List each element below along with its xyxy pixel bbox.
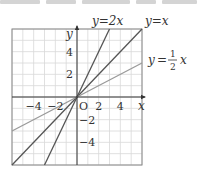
label-numerator: 1 bbox=[170, 49, 176, 59]
y-tick-label: 2 bbox=[66, 68, 73, 81]
label-var: y bbox=[147, 53, 155, 67]
origin-label: O bbox=[79, 100, 88, 113]
label-rhs: x bbox=[180, 53, 187, 67]
x-tick-label: −2 bbox=[47, 100, 63, 113]
y-axis-arrow bbox=[75, 25, 79, 30]
y-axis-label: y bbox=[65, 27, 73, 41]
label-denominator: 2 bbox=[170, 62, 176, 72]
y-tick-label: −2 bbox=[79, 114, 95, 127]
linear-functions-graph: xyO−4−22442−2−4 y=2x y=x y = 1 2 x bbox=[0, 0, 197, 177]
x-tick-label: −4 bbox=[26, 100, 42, 113]
label-y-half-x: y = 1 2 x bbox=[147, 49, 187, 72]
y-tick-label: 4 bbox=[66, 46, 73, 59]
label-eq: = bbox=[157, 53, 167, 67]
label-y-x: y=x bbox=[144, 14, 169, 28]
x-axis-label: x bbox=[138, 99, 145, 113]
x-tick-label: 4 bbox=[117, 100, 124, 113]
y-tick-label: −4 bbox=[79, 136, 95, 149]
x-tick-label: 2 bbox=[95, 100, 102, 113]
label-y-2x: y=2x bbox=[91, 14, 123, 28]
